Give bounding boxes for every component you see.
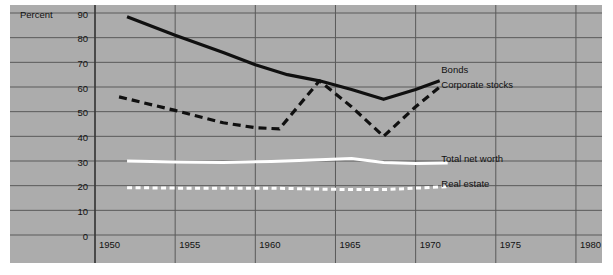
y-tick-label: 50 xyxy=(77,107,88,118)
chart-plot-background xyxy=(10,5,602,263)
x-tick-label: 1960 xyxy=(259,239,280,250)
y-tick-label: 0 xyxy=(83,231,88,242)
x-tick-label: 1965 xyxy=(339,239,360,250)
y-tick-label: 40 xyxy=(77,132,88,143)
series-label-real-estate: Real estate xyxy=(441,178,489,189)
y-axis-title: Percent xyxy=(20,9,53,20)
y-tick-label: 90 xyxy=(77,9,88,20)
chart-container: 0102030405060708090Percent19501955196019… xyxy=(0,0,613,275)
y-tick-label: 30 xyxy=(77,157,88,168)
series-label-total-net-worth: Total net worth xyxy=(441,153,503,164)
series-label-bonds: Bonds xyxy=(441,64,468,75)
y-tick-label: 20 xyxy=(77,181,88,192)
x-tick-label: 1975 xyxy=(500,239,521,250)
x-tick-label: 1955 xyxy=(179,239,200,250)
y-tick-label: 80 xyxy=(77,33,88,44)
y-tick-label: 70 xyxy=(77,58,88,69)
percent-line-chart: 0102030405060708090Percent19501955196019… xyxy=(0,0,613,275)
x-tick-label: 1970 xyxy=(420,239,441,250)
series-label-corporate-stocks: Corporate stocks xyxy=(441,79,513,90)
y-tick-label: 10 xyxy=(77,206,88,217)
x-tick-label: 1950 xyxy=(99,239,120,250)
y-tick-label: 60 xyxy=(77,83,88,94)
x-tick-label: 1980 xyxy=(580,239,601,250)
